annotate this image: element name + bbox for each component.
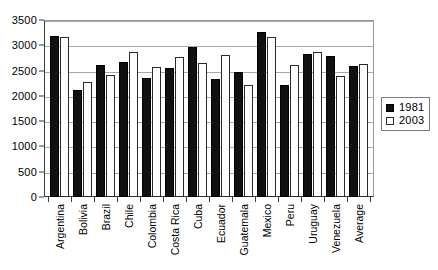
y-axis-tick-label: 1000 <box>12 141 37 152</box>
y-axis-tick-label: 500 <box>18 166 37 177</box>
bar-brazil-1981 <box>96 65 105 197</box>
bar-mexico-1981 <box>257 32 266 197</box>
bar-group <box>255 20 278 197</box>
bar-group <box>94 20 117 197</box>
x-axis-label-cuba: Cuba <box>192 204 203 229</box>
bar-brazil-2003 <box>106 75 115 197</box>
bar-group <box>232 20 255 197</box>
bar-ecuador-2003 <box>221 55 230 197</box>
bar-groups <box>44 20 374 197</box>
x-axis-label-cell: Peru <box>278 202 301 268</box>
bar-group <box>117 20 140 197</box>
x-axis-label-cell: Venezuela <box>324 202 347 268</box>
bar-group <box>324 20 347 197</box>
y-axis-tick-label: 1500 <box>12 116 37 127</box>
bar-uruguay-2003 <box>313 52 322 197</box>
bar-argentina-1981 <box>50 36 59 197</box>
bar-group <box>347 20 370 197</box>
bar-chile-2003 <box>129 52 138 197</box>
bar-group <box>140 20 163 197</box>
bar-peru-2003 <box>290 65 299 197</box>
bar-colombia-2003 <box>152 67 161 197</box>
legend-label-1981: 1981 <box>399 102 424 113</box>
bar-ecuador-1981 <box>211 79 220 197</box>
bar-costa-rica-1981 <box>165 68 174 197</box>
x-axis-label-venezuela: Venezuela <box>330 204 341 253</box>
x-axis-label-cell: Brazil <box>94 202 117 268</box>
y-axis-tick-label: 2500 <box>12 65 37 76</box>
bar-group <box>301 20 324 197</box>
x-axis-label-cell: Costa Rica <box>163 202 186 268</box>
bar-guatemala-2003 <box>244 85 253 197</box>
bar-group <box>209 20 232 197</box>
bar-venezuela-1981 <box>326 56 335 197</box>
y-axis: 0500100015002000250030003500 <box>0 20 44 197</box>
bar-group <box>71 20 94 197</box>
x-axis-labels: ArgentinaBoliviaBrazilChileColombiaCosta… <box>44 202 374 268</box>
chart-legend: 1981 2003 <box>381 97 430 131</box>
legend-label-2003: 2003 <box>399 115 424 126</box>
x-axis-label-colombia: Colombia <box>146 204 157 248</box>
bar-bolivia-1981 <box>73 90 82 197</box>
legend-swatch-1981 <box>386 104 394 112</box>
y-axis-tick-label: 0 <box>31 192 37 203</box>
x-axis-label-mexico: Mexico <box>261 204 272 237</box>
y-axis-tick-label: 2000 <box>12 90 37 101</box>
x-axis-label-cell: Guatemala <box>232 202 255 268</box>
bar-costa-rica-2003 <box>175 57 184 197</box>
x-axis-label-cell: Cuba <box>186 202 209 268</box>
bar-mexico-2003 <box>267 37 276 197</box>
x-axis-label-cell: Colombia <box>140 202 163 268</box>
x-axis-label-uruguay: Uruguay <box>307 204 318 244</box>
bar-average-2003 <box>359 64 368 197</box>
y-axis-tick-label: 3000 <box>12 40 37 51</box>
bar-chile-1981 <box>119 62 128 197</box>
x-axis-label-cell: Bolivia <box>71 202 94 268</box>
x-axis-label-cell: Ecuador <box>209 202 232 268</box>
x-axis-label-costa-rica: Costa Rica <box>169 204 180 255</box>
bar-colombia-1981 <box>142 78 151 197</box>
x-axis-label-bolivia: Bolivia <box>77 204 88 235</box>
bar-group <box>186 20 209 197</box>
bar-cuba-1981 <box>188 47 197 197</box>
bar-guatemala-1981 <box>234 72 243 197</box>
bar-cuba-2003 <box>198 63 207 197</box>
x-axis-label-cell: Argentina <box>48 202 71 268</box>
x-axis-label-ecuador: Ecuador <box>215 204 226 243</box>
x-axis-label-cell: Uruguay <box>301 202 324 268</box>
bar-group <box>163 20 186 197</box>
legend-item-2003: 2003 <box>386 114 424 127</box>
legend-item-1981: 1981 <box>386 101 424 114</box>
bar-venezuela-2003 <box>336 76 345 197</box>
bar-average-1981 <box>349 66 358 197</box>
bar-group <box>278 20 301 197</box>
bar-uruguay-1981 <box>303 54 312 197</box>
x-axis-label-peru: Peru <box>284 204 295 226</box>
bar-group <box>48 20 71 197</box>
bar-chart: 0500100015002000250030003500 ArgentinaBo… <box>0 0 438 270</box>
x-axis-label-cell: Average <box>347 202 370 268</box>
bar-bolivia-2003 <box>83 82 92 197</box>
x-axis-label-argentina: Argentina <box>54 204 65 249</box>
x-axis-label-chile: Chile <box>123 204 134 228</box>
bar-argentina-2003 <box>60 37 69 197</box>
bar-peru-1981 <box>280 85 289 197</box>
x-axis-label-average: Average <box>353 204 364 243</box>
legend-swatch-2003 <box>386 117 394 125</box>
x-axis-label-cell: Mexico <box>255 202 278 268</box>
x-axis-label-brazil: Brazil <box>100 204 111 230</box>
x-axis-label-guatemala: Guatemala <box>238 204 249 255</box>
x-axis-label-cell: Chile <box>117 202 140 268</box>
y-axis-tick-label: 3500 <box>12 15 37 26</box>
